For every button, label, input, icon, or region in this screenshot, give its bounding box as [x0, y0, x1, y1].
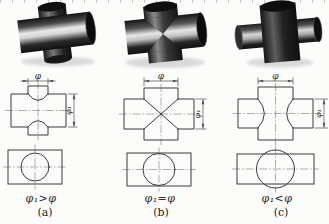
- phi-dim-label: φ: [158, 71, 165, 81]
- front-view-b: φ φ₁: [119, 71, 207, 146]
- letter-label-b: (b): [110, 206, 212, 219]
- phi1-dim-label: φ₁: [193, 110, 202, 119]
- column-c-figure: φ φ₁: [220, 0, 329, 224]
- column-b: φ φ₁ φ₁=φ (b): [110, 0, 220, 224]
- front-view-a: φ φ₁: [5, 71, 78, 141]
- letter-label-c: (c): [232, 206, 329, 219]
- top-view-a: [3, 145, 67, 190]
- phi1-dim-label: φ₁: [314, 109, 323, 118]
- column-a-figure: φ φ₁: [0, 0, 110, 224]
- relation-label-b: φ₁=φ: [110, 192, 210, 205]
- phi1-dimension-c: φ₁: [314, 99, 329, 128]
- phi-dimension-c: φ: [258, 71, 293, 85]
- pipe-cross-photo-a: [15, 0, 99, 68]
- top-view-c: [232, 146, 319, 193]
- pipe-cross-photo-b: [123, 0, 210, 68]
- front-view-c: φ φ₁: [233, 71, 328, 146]
- relation-label-c: φ₁<φ: [224, 192, 329, 205]
- phi1-dim-label: φ₁: [64, 106, 73, 115]
- relation-label-a: φ₁>φ: [0, 192, 82, 205]
- textbook-figure-intersecting-cylinders: φ φ₁ φ₁>φ (a): [0, 0, 329, 224]
- column-a: φ φ₁ φ₁>φ (a): [0, 0, 110, 224]
- top-view-b: [122, 148, 196, 192]
- letter-label-a: (a): [0, 206, 90, 219]
- pipe-cross-photo-c: [232, 0, 324, 68]
- phi-dim-label: φ: [35, 71, 42, 81]
- column-c: φ φ₁ φ₁<φ (c): [220, 0, 329, 224]
- phi-dim-label: φ: [272, 71, 279, 81]
- phi1-dimension-b: φ₁: [193, 99, 207, 129]
- column-b-figure: φ φ₁: [110, 0, 220, 224]
